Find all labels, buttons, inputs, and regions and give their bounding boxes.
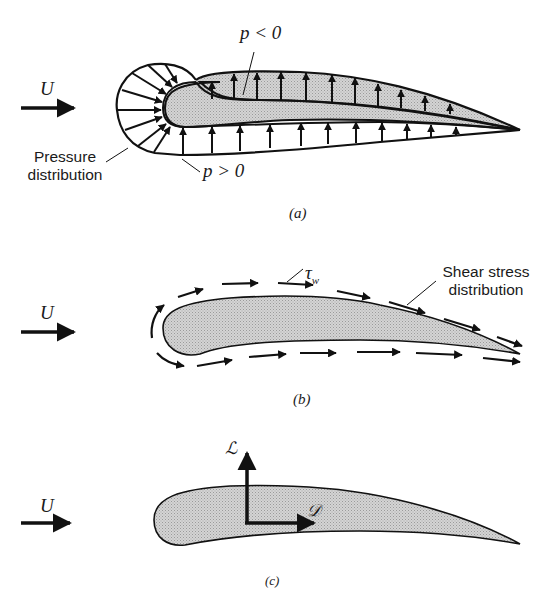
leader-tau-w	[287, 269, 303, 282]
caption-c: (c)	[265, 573, 279, 589]
suction-label: p < 0	[240, 22, 281, 44]
airfoil-force-figure: U p < 0 p > 0 Pressure distribution (a) …	[0, 0, 556, 597]
tau-symbol: τ	[305, 262, 312, 283]
panel-c	[21, 453, 520, 545]
freestream-label-a: U	[40, 78, 54, 100]
shear-distribution-line2: distribution	[436, 281, 536, 299]
shear-distribution-label: Shear stress distribution	[436, 263, 536, 299]
lift-label: ℒ	[225, 438, 237, 458]
pressure-side-label: p > 0	[203, 160, 244, 182]
caption-c-text: (c)	[265, 573, 279, 588]
airfoil-c	[154, 485, 520, 545]
tau-subscript: w	[312, 274, 319, 286]
drag-label: 𝒟	[307, 500, 321, 520]
pressure-distribution-label: Pressure distribution	[20, 148, 110, 184]
shear-distribution-line1: Shear stress	[436, 263, 536, 281]
pressure-distribution-line1: Pressure	[20, 148, 110, 166]
caption-b-text: (b)	[293, 391, 311, 407]
caption-a-text: (a)	[289, 205, 307, 221]
freestream-label-c: U	[40, 495, 54, 517]
freestream-label-b: U	[40, 302, 54, 324]
wall-shear-label: τw	[305, 262, 319, 286]
leader-shear-dist	[407, 281, 436, 305]
caption-a: (a)	[289, 205, 307, 222]
caption-b: (b)	[293, 391, 311, 408]
pressure-distribution-line2: distribution	[20, 166, 110, 184]
shear-arrows-lower	[157, 352, 520, 366]
leader-p-greater	[182, 159, 200, 172]
